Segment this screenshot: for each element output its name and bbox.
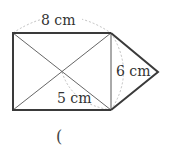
geometry-figure: 8 cm 6 cm 5 cm (: [0, 0, 170, 148]
right-height-label: 6 cm: [116, 63, 150, 79]
half-diagonal-label: 5 cm: [57, 90, 91, 106]
top-width-label: 8 cm: [41, 12, 75, 28]
answer-parenthesis: (: [56, 127, 62, 146]
